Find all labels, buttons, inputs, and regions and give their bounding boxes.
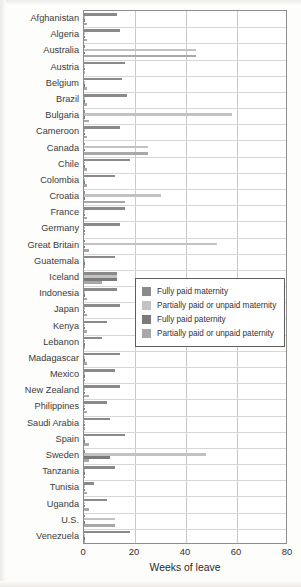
bar — [84, 136, 87, 139]
bar — [84, 49, 196, 52]
bar — [84, 265, 85, 268]
y-axis-tick-label: Austria — [0, 62, 79, 72]
y-axis-tick-label: Colombia — [0, 175, 79, 185]
bar — [84, 201, 125, 204]
y-axis-tick-label: France — [0, 207, 79, 217]
bar — [84, 13, 117, 16]
bar — [84, 243, 217, 246]
bar — [84, 233, 85, 236]
y-axis-tick-label: Philippines — [0, 401, 79, 411]
bar — [84, 492, 87, 495]
bar — [84, 346, 85, 349]
bar — [84, 508, 89, 511]
legend-swatch-icon — [142, 287, 151, 296]
bar — [84, 459, 89, 462]
bar-group — [84, 529, 286, 544]
x-axis-title: Weeks of leave — [83, 562, 287, 573]
bar — [84, 159, 130, 162]
y-axis-tick-label: Japan — [0, 304, 79, 314]
y-axis-tick-label: Venezuela — [0, 531, 79, 541]
plot-wrapper: AfghanistanAlgeriaAustraliaAustriaBelgiu… — [0, 0, 301, 587]
bar — [84, 362, 87, 365]
y-axis-tick-label: Canada — [0, 143, 79, 153]
bar — [84, 288, 117, 291]
bar-group — [84, 351, 286, 367]
bar — [84, 531, 130, 534]
legend-swatch-icon — [142, 301, 151, 310]
bar — [84, 427, 85, 430]
bar — [84, 443, 89, 446]
bar — [84, 126, 120, 129]
y-axis-tick-label: New Zealand — [0, 385, 79, 395]
x-axis-tick-label: 80 — [282, 546, 292, 557]
bar — [84, 379, 85, 382]
bar — [84, 194, 161, 197]
y-axis-tick-label: Belgium — [0, 78, 79, 88]
y-axis-tick-label: Madagascar — [0, 353, 79, 363]
bar — [84, 411, 87, 414]
y-axis-tick-label: Tunisia — [0, 482, 79, 492]
bar-group — [84, 238, 286, 254]
y-axis-tick-label: Great Britain — [0, 240, 79, 250]
bar — [84, 55, 196, 58]
bar — [84, 168, 87, 171]
bar — [84, 120, 89, 123]
y-axis-tick-label: Algeria — [0, 29, 79, 39]
bar-group — [84, 27, 286, 43]
bar-group — [84, 108, 286, 124]
bar — [84, 207, 125, 210]
legend-swatch-icon — [142, 329, 151, 338]
bar-group — [84, 383, 286, 399]
bar — [84, 418, 110, 421]
bar-group — [84, 513, 286, 529]
plot-area — [83, 10, 287, 544]
bar — [84, 175, 115, 178]
bar-group — [84, 221, 286, 237]
bar — [84, 395, 89, 398]
bar — [84, 540, 85, 543]
bar — [84, 152, 148, 155]
bar — [84, 321, 107, 324]
bar — [84, 39, 87, 42]
bar-group — [84, 124, 286, 140]
legend-item: Partially paid or unpaid paternity — [142, 326, 278, 340]
y-axis-tick-label: Afghanistan — [0, 13, 79, 23]
bar-group — [84, 367, 286, 383]
legend-item: Partially paid or unpaid maternity — [142, 298, 278, 312]
legend-label: Partially paid or unpaid paternity — [157, 329, 274, 338]
bar-group — [84, 43, 286, 59]
bar-group — [84, 157, 286, 173]
bar — [84, 23, 87, 26]
bar — [84, 256, 115, 259]
bar — [84, 434, 125, 437]
bar — [84, 314, 87, 317]
bar — [84, 113, 232, 116]
y-axis-tick-label: Iceland — [0, 272, 79, 282]
bar — [84, 223, 120, 226]
legend-label: Partially paid or unpaid maternity — [157, 301, 276, 310]
bar — [84, 524, 115, 527]
bar — [84, 369, 115, 372]
bar-group — [84, 189, 286, 205]
y-axis-tick-label: Australia — [0, 45, 79, 55]
bar-group — [84, 399, 286, 415]
y-axis-tick-label: Brazil — [0, 94, 79, 104]
y-axis-tick-label: Kenya — [0, 321, 79, 331]
x-axis-tick-label: 0 — [80, 546, 85, 557]
y-axis-tick-label: Uganda — [0, 499, 79, 509]
bar-group — [84, 60, 286, 76]
bar-group — [84, 11, 286, 27]
bar — [84, 466, 115, 469]
bar — [84, 337, 102, 340]
bar — [84, 499, 107, 502]
y-axis-tick-label: Sweden — [0, 450, 79, 460]
bar-group — [84, 254, 286, 270]
bar — [84, 298, 87, 301]
y-axis-tick-label: Spain — [0, 434, 79, 444]
y-axis-tick-label: Indonesia — [0, 288, 79, 298]
bar — [84, 87, 87, 90]
y-axis-tick-label: Bulgaria — [0, 110, 79, 120]
bar — [84, 146, 148, 149]
bar-group — [84, 140, 286, 156]
y-axis-tick-label: Germany — [0, 223, 79, 233]
